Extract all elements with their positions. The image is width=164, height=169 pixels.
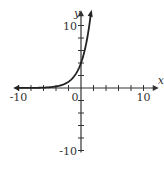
- x-min-label: -10: [10, 91, 28, 104]
- x-max-label: 10: [137, 91, 151, 104]
- curve-right-arrow-icon: [88, 10, 93, 18]
- origin-label: 0: [72, 91, 79, 104]
- y-min-label: -10: [59, 145, 77, 158]
- x-axis-title: x: [158, 74, 164, 87]
- chart: -1010010-10xy: [0, 0, 164, 169]
- y-axis-title: y: [73, 7, 81, 20]
- y-max-label: 10: [63, 20, 77, 33]
